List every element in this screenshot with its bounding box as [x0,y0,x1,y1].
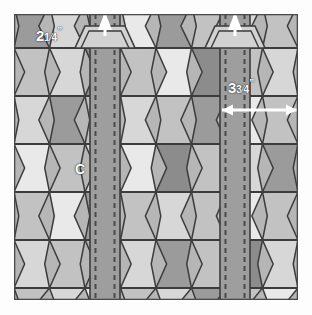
quilt-patch [263,240,299,288]
patch-group [14,14,298,300]
quilt-patch [121,240,157,288]
quilt-patch [14,144,50,192]
quilt-patch [156,240,192,288]
quilt-patch [121,48,157,96]
quilt-patch [50,192,86,240]
dimension-arrow-shaft [222,109,297,112]
block-width-unit: ” [249,78,254,89]
quilt-patch [50,288,86,300]
sash-width-label: 21⁄4” [36,27,62,43]
quilt-patch [121,144,157,192]
right-bracket-arrow-shaft [234,14,237,36]
diagram-canvas: 21⁄4” 33⁄4” C [0,0,312,315]
quilt-patch [263,192,299,240]
quilt-pattern [14,14,298,300]
quilt-patch [14,192,50,240]
block-width-label: 33⁄4” [228,79,254,95]
quilt-patch [263,144,299,192]
quilt-patch [121,192,157,240]
quilt-patch [14,48,50,96]
quilt-patch [50,96,86,144]
piece-c-label: C [75,162,85,176]
quilt-patch [14,240,50,288]
quilt-patch [156,192,192,240]
quilt-panel [14,14,298,300]
quilt-patch [156,48,192,96]
quilt-patch [156,96,192,144]
quilt-patch [263,288,299,300]
sash-width-unit: ” [57,26,62,37]
quilt-patch [156,288,192,300]
quilt-patch [14,288,50,300]
quilt-patch [263,48,299,96]
left-bracket-arrow-shaft [104,14,107,36]
quilt-patch [263,96,299,144]
quilt-patch [50,240,86,288]
quilt-patch [50,48,86,96]
quilt-patch [121,288,157,300]
quilt-patch [263,14,299,48]
quilt-patch [156,14,192,48]
quilt-patch [14,96,50,144]
quilt-patch [121,96,157,144]
quilt-patch [156,144,192,192]
